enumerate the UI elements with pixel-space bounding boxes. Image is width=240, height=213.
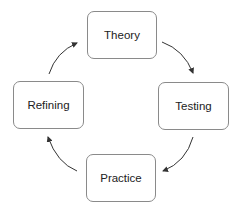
node-theory-label: Theory xyxy=(104,29,140,41)
node-refining-label: Refining xyxy=(27,99,69,111)
node-practice: Practice xyxy=(86,154,156,202)
arrow-refining-to-theory xyxy=(49,43,77,74)
arrow-testing-to-practice xyxy=(163,137,193,171)
node-testing-label: Testing xyxy=(175,100,211,112)
arrow-theory-to-testing xyxy=(162,42,193,73)
node-practice-label: Practice xyxy=(100,172,142,184)
node-refining: Refining xyxy=(13,81,84,129)
node-theory: Theory xyxy=(87,11,157,59)
node-testing: Testing xyxy=(158,82,229,130)
arrow-practice-to-refining xyxy=(48,137,77,171)
